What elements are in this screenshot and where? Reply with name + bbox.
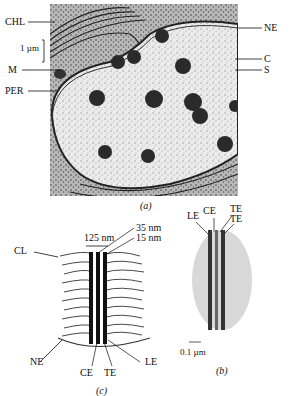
label-ne-c: NE [30,357,43,367]
dimension-15nm: 15 nm [136,233,161,243]
label-le-b: LE [187,211,199,221]
label-ce-c: CE [80,368,93,378]
dimension-125nm: 125 nm [84,233,114,243]
synaptonemal-complex-diagram [34,228,150,366]
label-ne: NE [264,23,277,33]
scale-bar-label-1um: 1 µm [20,43,39,53]
label-te-c: TE [104,368,116,378]
label-s: S [264,65,270,75]
label-le-c: LE [145,357,157,367]
label-c: C [264,54,271,64]
caption-b: (b) [216,365,228,376]
label-chl: CHL [5,17,25,27]
label-ce-b: CE [203,206,216,216]
caption-c: (c) [96,385,107,396]
label-per: PER [5,86,23,96]
panel-b-micrograph [189,216,252,342]
caption-a: (a) [140,200,152,211]
scale-bar-label-0-1um: 0.1 µm [180,347,206,357]
label-cl: CL [14,246,27,256]
nucleus-micrograph-illustration [50,4,238,196]
label-m: M [8,65,17,75]
label-te-b-2: TE [230,214,242,224]
micrograph-panel-a [50,4,238,196]
